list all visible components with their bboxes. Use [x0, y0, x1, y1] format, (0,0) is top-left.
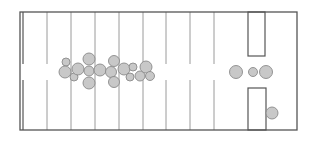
diagram-canvas	[0, 0, 315, 141]
circle-marker-17	[146, 72, 155, 81]
circle-marker-11	[109, 77, 120, 88]
circle-marker-20	[260, 66, 273, 79]
circle-marker-19	[249, 68, 258, 77]
lower-bay-rect	[248, 88, 266, 130]
circle-marker-2	[59, 66, 71, 78]
circle-marker-13	[129, 63, 137, 71]
circle-marker-4	[72, 63, 84, 75]
circle-marker-14	[126, 73, 134, 81]
circle-marker-18	[230, 66, 243, 79]
circle-marker-6	[84, 66, 94, 76]
circle-marker-21	[266, 107, 278, 119]
circle-marker-7	[83, 77, 95, 89]
circle-marker-5	[83, 53, 95, 65]
circle-marker-9	[106, 67, 117, 78]
circle-marker-1	[62, 58, 70, 66]
circles-group	[59, 53, 278, 119]
diagram-svg	[0, 0, 315, 141]
circle-marker-10	[109, 56, 120, 67]
circle-marker-8	[94, 64, 106, 76]
upper-bay-rect	[248, 12, 265, 56]
